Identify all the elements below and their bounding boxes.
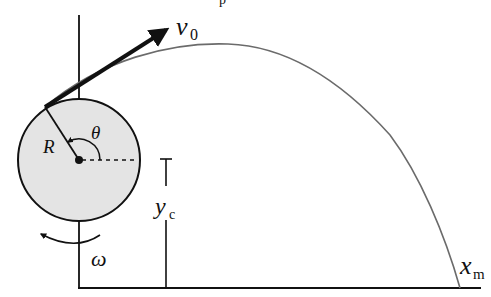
top-cutoff-text: p <box>219 0 226 7</box>
projectile-wheel-diagram: p v 0 R θ ω y c x m <box>0 0 491 297</box>
velocity-vector-arrow <box>45 30 166 107</box>
center-dot <box>75 156 83 164</box>
yc-subscript: c <box>169 207 175 222</box>
velocity-subscript: 0 <box>190 26 198 43</box>
omega-label: ω <box>91 246 107 271</box>
theta-label: θ <box>91 122 100 143</box>
xm-label: x <box>459 251 472 280</box>
xm-subscript: m <box>473 266 485 282</box>
yc-label: y <box>153 193 166 219</box>
velocity-label: v <box>176 12 188 41</box>
radius-label: R <box>42 136 55 157</box>
omega-rotation-icon <box>41 234 100 243</box>
